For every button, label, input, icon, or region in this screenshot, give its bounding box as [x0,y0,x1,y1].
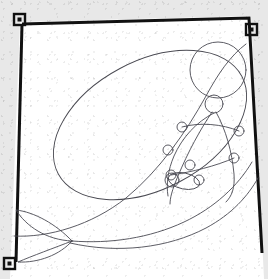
paper-sheet [10,16,264,279]
drawing-svg [0,0,268,279]
scanned-drawing-canvas [0,0,268,279]
